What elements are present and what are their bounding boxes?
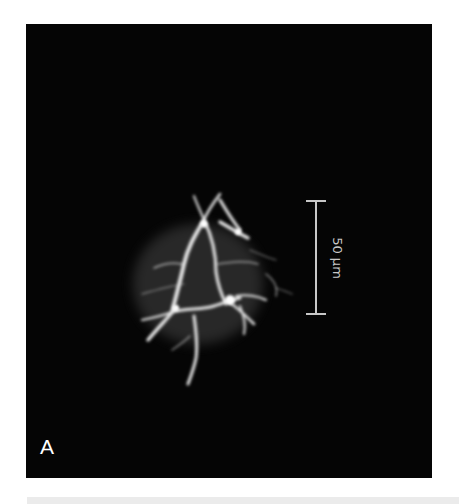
scale-bar: 50 µm: [305, 200, 355, 318]
panel-label: A: [40, 435, 54, 459]
fluorescent-cell-image: [26, 24, 432, 478]
scale-bar-line: [315, 201, 317, 314]
scale-bar-bottom-cap: [306, 313, 326, 315]
scale-bar-label: 50 µm: [330, 237, 345, 279]
bottom-divider: [27, 497, 459, 504]
micrograph-panel: 50 µm A: [26, 24, 432, 478]
